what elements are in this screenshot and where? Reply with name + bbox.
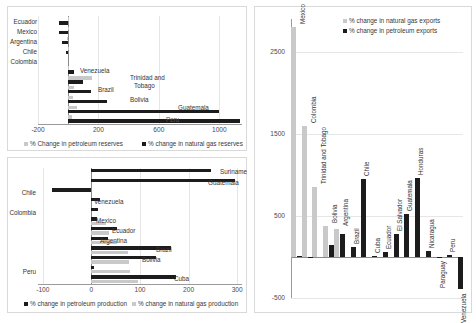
bar-reserves-venezuela-0 [68,66,69,69]
legend-label: % Change in petroleum reserves [30,140,123,147]
bar-exports-brazil-1 [351,247,356,257]
category-label-reserves: Brazil [98,86,114,93]
category-label-production: Bolivia [142,256,161,263]
x-tick-label: 200 [179,286,199,293]
bar-exports-trinidad-and-tobago-0 [312,187,317,257]
category-label-production: Chile [8,189,36,196]
gridline [38,16,39,124]
bar-reserves-guatemala-0 [68,106,76,109]
bar-exports-nicaragua-1 [426,251,431,257]
bar-exports-bolivia-0 [323,226,328,257]
chart-panel-production: SurinameGuatemalaChileVenezuelaColombiaM… [7,157,247,313]
category-label-production: Cuba [174,275,189,282]
y-tick-label: 2500 [257,48,285,55]
bar-reserves-argentina-0 [67,37,68,40]
bar-exports-colombia-1 [308,257,313,258]
y-tick-label: -500 [257,294,285,301]
x-tick-label: 1000 [209,126,229,133]
x-tick-label: 200 [88,126,108,133]
category-label-reserves: Peru [166,116,179,123]
bar-exports-argentina-0 [334,229,339,256]
legend-swatch [343,29,347,33]
gridline [189,168,190,284]
category-label-reserves: Colombia [8,58,37,65]
x-tick-label: 300 [227,286,247,293]
legend-label: % change in petroleum exports [349,27,437,34]
bar-exports-venezuela-1 [458,257,463,289]
bar-reserves-brazil-0 [68,86,74,89]
plot-area-production: SurinameGuatemalaChileVenezuelaColombiaM… [8,158,246,312]
category-label-production: Ecuador [112,227,135,234]
bar-production-suriname-0 [91,169,211,173]
chart-legend-item: % change in natural gas production [132,300,238,307]
bar-reserves-chile-0 [68,47,69,50]
legend-label: % change in petroleum production [30,300,127,307]
legend-swatch [24,302,28,306]
y-tick-label: 1500 [257,130,285,137]
category-label-production: Argentina [100,237,127,244]
gridline [291,298,463,299]
category-label-production: Suriname [220,168,247,175]
bar-production-cuba-1 [91,280,137,284]
gridline [159,16,160,124]
x-tick-label: -100 [33,286,53,293]
category-label-production: Brazil [156,246,172,253]
chart-legend-item: % change in natural gas exports [343,17,440,24]
category-label-production: Venezuela [94,198,123,205]
chart-legend-item: % change in petroleum production [24,300,127,307]
bar-production-chile-0 [52,188,92,192]
plot-area-reserves: EcuadorMexicoArgentinaChileColombiaVenez… [8,7,246,150]
category-label-exports: Colombia [310,96,317,123]
gridline [219,16,220,124]
bar-reserves-argentina-1 [62,41,68,44]
bar-reserves-chile-1 [66,51,69,54]
category-label-reserves: Ecuador [8,18,37,25]
category-label-exports: Honduras [417,148,424,175]
bar-production-colombia-0 [91,208,98,212]
category-label-reserves: Bolivia [130,96,149,103]
category-label-reserves: Trinidad and [130,74,165,81]
category-label-exports: Brazil [353,228,360,244]
category-label-exports: Cuba [374,238,381,253]
gridline [291,134,463,135]
bar-production-bolivia-1 [91,260,129,264]
category-label-exports: Mexico [299,4,306,24]
x-axis-line [38,124,242,125]
bar-reserves-trinidad-and-tobago-0 [68,76,92,79]
category-label-reserves: Guatemala [178,104,209,111]
category-label-exports: Bolivia [331,204,338,223]
bar-production-peru-1 [91,270,130,274]
bar-production-cuba-0 [91,275,176,279]
x-tick-label: 600 [149,126,169,133]
chart-panel-reserves: EcuadorMexicoArgentinaChileColombiaVenez… [7,6,247,151]
bar-reserves-bolivia-1 [68,100,107,103]
category-label-exports: Peru [449,238,456,251]
chart-legend-item: % Change in petroleum reserves [24,140,123,147]
bar-exports-ecuador-1 [383,252,388,257]
bar-reserves-ecuador-0 [68,17,69,20]
x-axis-line [38,284,242,285]
category-label-production: Colombia [8,209,36,216]
category-label-reserves: Venezuela [80,67,109,74]
chart-legend-item: % change in petroleum exports [343,27,437,34]
category-label-exports: Nicaragua [428,220,435,249]
category-label-reserves: Mexico [8,28,37,35]
category-label-production: Mexico [96,217,116,224]
chart-panel-exports: 25001500500-500MexicoColombiaTrinidad an… [254,6,472,313]
legend-label: % change in natural gas exports [349,17,440,24]
legend-swatch [142,142,146,146]
bar-reserves-brazil-1 [68,90,91,93]
category-label-exports: Trinidad and Tobago [320,127,327,184]
chart-legend-item: % change in natural gas reserves [142,140,243,147]
plot-area-exports: 25001500500-500MexicoColombiaTrinidad an… [255,7,471,312]
legend-swatch [132,302,136,306]
legend-label: % change in natural gas production [138,300,238,307]
legend-swatch [343,19,347,23]
category-label-exports: El Salvador [396,198,403,230]
bar-exports-chile-1 [361,179,366,257]
bar-reserves-peru-0 [68,115,72,118]
x-tick-label: -200 [28,126,48,133]
legend-label: % change in natural gas reserves [148,140,243,147]
bar-reserves-mexico-1 [59,31,68,34]
